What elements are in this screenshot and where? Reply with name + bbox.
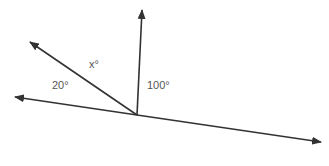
ray-right bbox=[137, 115, 321, 142]
ray-upper-left bbox=[30, 42, 137, 115]
label-x-angle: x° bbox=[89, 58, 99, 70]
ray-left bbox=[15, 97, 137, 115]
label-angle-20: 20° bbox=[52, 79, 69, 91]
ray-up bbox=[137, 10, 142, 115]
label-angle-100: 100° bbox=[147, 79, 170, 91]
